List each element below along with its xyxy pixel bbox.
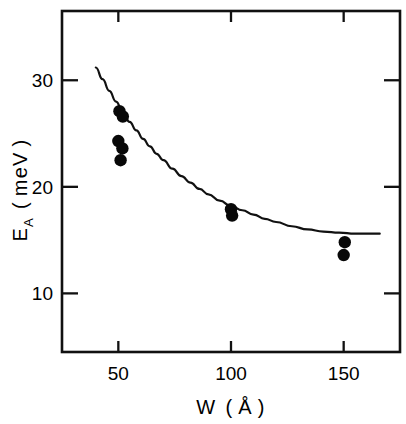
x-tick-label-150: 150 bbox=[328, 363, 360, 384]
x-axis-title: W(Å) bbox=[196, 396, 265, 418]
data-point-8 bbox=[337, 249, 349, 261]
y-axis-title-subscript: A bbox=[21, 217, 36, 227]
scatter-plot-canvas: 50100150 102030 W(Å) EA(meV) bbox=[0, 0, 406, 424]
x-axis-ticks-top bbox=[118, 11, 343, 22]
y-tick-label-30: 30 bbox=[32, 70, 53, 91]
data-points-group bbox=[112, 105, 351, 261]
data-point-6 bbox=[226, 209, 238, 221]
data-point-7 bbox=[339, 236, 351, 248]
x-axis-title-symbol: W bbox=[196, 396, 216, 418]
x-tick-label-100: 100 bbox=[215, 363, 247, 384]
y-axis-title-symbol: E bbox=[9, 227, 31, 242]
axis-frame bbox=[62, 11, 400, 352]
plot-frame-group bbox=[62, 11, 400, 352]
x-axis-ticks-bottom bbox=[118, 341, 343, 352]
y-tick-label-20: 20 bbox=[32, 177, 53, 198]
data-point-4 bbox=[114, 154, 126, 166]
x-tick-label-50: 50 bbox=[108, 363, 129, 384]
y-axis-title-unit: meV bbox=[9, 151, 31, 196]
x-axis-title-group: W(Å) bbox=[196, 396, 265, 418]
y-axis-ticks-left bbox=[62, 80, 78, 293]
x-axis-title-unit: Å bbox=[238, 396, 253, 418]
y-axis-tick-labels: 102030 bbox=[32, 70, 53, 304]
y-tick-label-10: 10 bbox=[32, 283, 53, 304]
data-point-1 bbox=[117, 110, 129, 122]
x-axis-tick-labels: 50100150 bbox=[108, 363, 360, 384]
data-point-3 bbox=[116, 142, 128, 154]
figure-root: 50100150 102030 W(Å) EA(meV) bbox=[0, 0, 406, 424]
y-axis-ticks-right bbox=[384, 80, 400, 293]
theory-curve bbox=[96, 67, 380, 233]
